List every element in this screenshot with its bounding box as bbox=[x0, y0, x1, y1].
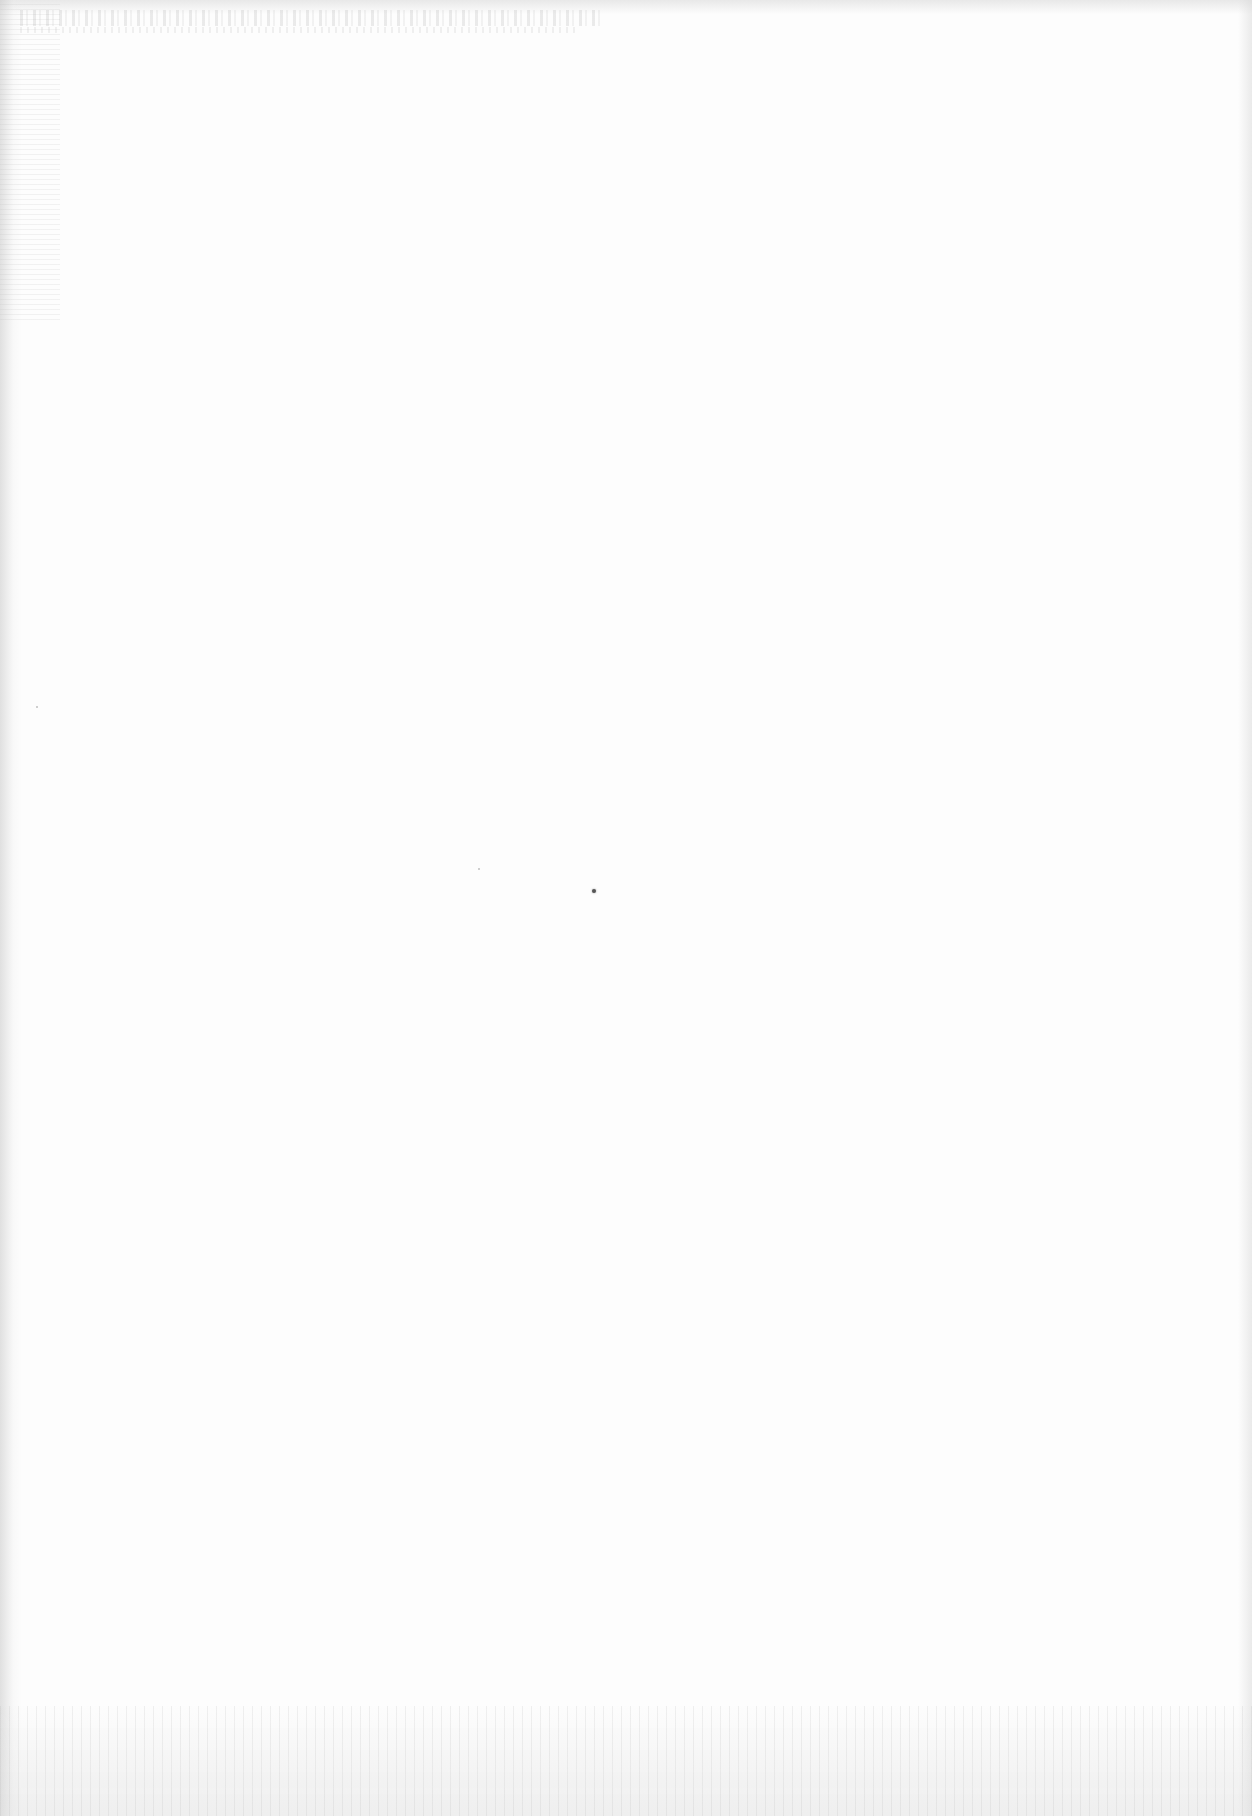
scan-speck-faint bbox=[36, 706, 38, 708]
scan-speckle-top-left bbox=[0, 0, 60, 320]
scan-noise-bottom bbox=[0, 1706, 1252, 1816]
blank-scanned-page bbox=[0, 0, 1252, 1816]
scan-speck-faint bbox=[478, 868, 480, 870]
scan-speck bbox=[592, 889, 596, 893]
bleed-through-text-strip-secondary bbox=[20, 27, 580, 33]
bleed-through-text-strip bbox=[20, 10, 600, 26]
scan-edge-right bbox=[1238, 0, 1252, 1816]
